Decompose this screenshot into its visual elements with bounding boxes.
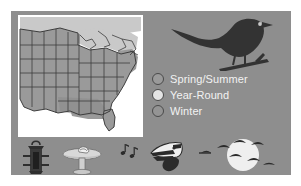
migration-svg — [197, 137, 279, 175]
bird-feeder-icon — [19, 137, 53, 175]
range-legend: Spring/Summer Year-Round Winter — [152, 71, 292, 119]
legend-label-year-round: Year-Round — [170, 89, 229, 101]
birdbath-foot — [73, 169, 91, 174]
singing-bird-icon — [115, 137, 183, 175]
legend-item-winter[interactable]: Winter — [152, 103, 292, 119]
infographic-root: Spring/Summer Year-Round Winter — [0, 0, 301, 186]
perched-bird-silhouette — [163, 13, 285, 71]
bird-feeder-svg — [19, 137, 53, 175]
singing-bird-svg — [115, 137, 183, 175]
feeder-base — [29, 171, 43, 174]
legend-swatch-spring-summer — [152, 73, 164, 85]
bird-head-group — [151, 143, 182, 172]
feeder-seed-window — [33, 152, 39, 169]
feeder-hanger — [32, 141, 40, 145]
legend-item-spring-summer[interactable]: Spring/Summer — [152, 71, 292, 87]
legend-label-spring-summer: Spring/Summer — [170, 73, 248, 85]
legend-swatch-year-round — [152, 89, 164, 101]
bird-beak-path — [262, 22, 273, 28]
content-panel: Spring/Summer Year-Round Winter — [11, 11, 291, 175]
legend-item-year-round[interactable]: Year-Round — [152, 87, 292, 103]
legend-swatch-winter — [152, 105, 164, 117]
music-notes — [120, 144, 138, 159]
migration-icon — [197, 137, 279, 175]
birdbath-svg — [59, 137, 105, 175]
bird-eye — [258, 22, 262, 26]
icon-strip — [11, 137, 291, 175]
range-map — [18, 15, 143, 137]
bird-body-path — [171, 19, 264, 57]
bird-eye — [172, 146, 175, 149]
perched-bird-svg — [163, 13, 285, 71]
range-map-svg — [18, 15, 143, 137]
feeder-cap — [28, 146, 44, 149]
birdbath-icon — [59, 137, 105, 175]
legend-label-winter: Winter — [170, 105, 202, 117]
